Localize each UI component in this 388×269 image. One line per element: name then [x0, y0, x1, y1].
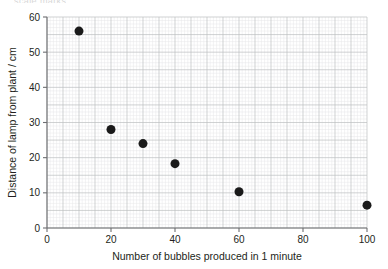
chart-canvas: 020406080100 0102030405060 Number of bub…	[0, 0, 388, 269]
x-tick-label: 0	[44, 234, 50, 245]
y-tick-label: 60	[29, 12, 41, 23]
y-tick-label: 10	[29, 187, 41, 198]
y-tick-label: 40	[29, 82, 41, 93]
x-axis-tick-labels: 020406080100	[44, 234, 376, 245]
y-axis-tick-labels: 0102030405060	[29, 12, 41, 234]
data-point	[107, 125, 116, 134]
y-tick-label: 0	[34, 223, 40, 234]
clipped-header-text: scale marks	[14, 0, 66, 3]
y-axis-title: Distance of lamp from plant / cm	[6, 47, 18, 198]
major-gridlines	[47, 17, 367, 228]
data-point	[75, 27, 84, 36]
data-point	[171, 159, 180, 168]
y-tick-label: 20	[29, 152, 41, 163]
x-tick-label: 60	[233, 234, 245, 245]
x-tick-label: 40	[169, 234, 181, 245]
data-point	[139, 139, 148, 148]
x-axis-title: Number of bubbles produced in 1 minute	[112, 250, 302, 262]
data-point	[363, 201, 372, 210]
x-tick-label: 80	[297, 234, 309, 245]
y-tick-label: 50	[29, 47, 41, 58]
y-tick-label: 30	[29, 117, 41, 128]
data-point	[235, 187, 244, 196]
scatter-chart-figure: scale marks 020406080100 0102030405060 N…	[0, 0, 388, 269]
x-tick-label: 20	[105, 234, 117, 245]
x-tick-label: 100	[359, 234, 376, 245]
